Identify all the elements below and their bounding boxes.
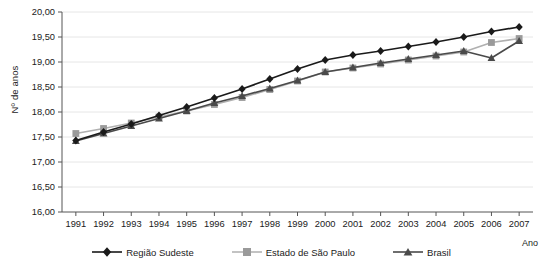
x-tick-label: 2002	[370, 219, 391, 229]
data-point-diamond	[516, 23, 523, 31]
x-tick-label: 1991	[66, 219, 87, 229]
x-tick-label: 2005	[453, 219, 474, 229]
data-point-diamond	[238, 85, 245, 93]
chart-legend: Região Sudeste Estado de São Paulo Brasi…	[0, 243, 543, 261]
chart-plot-area: 16,0016,5017,0017,5018,0018,5019,0019,50…	[0, 0, 543, 263]
line-chart: 16,0016,5017,0017,5018,0018,5019,0019,50…	[0, 0, 543, 263]
legend-marker-diamond-icon	[92, 246, 122, 258]
data-point-diamond	[377, 47, 384, 55]
x-tick-label: 2006	[481, 219, 502, 229]
legend-item-brasil[interactable]: Brasil	[393, 246, 451, 258]
series-line	[76, 41, 519, 141]
x-tick-label: 1994	[149, 219, 170, 229]
x-tick-label: 1995	[176, 219, 197, 229]
x-tick-label: 1996	[204, 219, 225, 229]
x-tick-label: 2003	[398, 219, 419, 229]
x-tick-label: 2000	[315, 219, 336, 229]
y-tick-label: 19,00	[32, 57, 55, 67]
x-tick-label: 1997	[232, 219, 253, 229]
data-point-diamond	[405, 42, 412, 50]
y-tick-label: 16,00	[32, 207, 55, 217]
y-tick-label: 17,00	[32, 157, 55, 167]
legend-label: Brasil	[427, 247, 451, 258]
data-point-diamond	[266, 75, 273, 83]
y-tick-label: 19,50	[32, 32, 55, 42]
data-series-layer	[72, 23, 523, 145]
data-point-diamond	[460, 33, 467, 41]
data-point-diamond	[349, 51, 356, 59]
data-point-diamond	[294, 65, 301, 73]
x-tick-label: 2004	[426, 219, 447, 229]
x-tick-label: 2001	[343, 219, 364, 229]
y-axis-title: Nº de anos	[9, 50, 20, 130]
data-point-diamond	[211, 94, 218, 102]
x-axis-tick-labels: 1991199219931994199519961997199819992000…	[66, 219, 530, 229]
data-point-diamond	[432, 38, 439, 46]
y-axis-tick-labels: 16,0016,5017,0017,5018,0018,5019,0019,50…	[32, 7, 55, 217]
data-point-square	[488, 39, 495, 46]
y-axis-ticks	[58, 12, 62, 212]
legend-marker-triangle-icon	[393, 246, 423, 258]
y-tick-label: 17,50	[32, 132, 55, 142]
data-point-diamond	[322, 56, 329, 64]
legend-label: Região Sudeste	[126, 247, 194, 258]
legend-item-regiao-sudeste[interactable]: Região Sudeste	[92, 246, 194, 258]
x-tick-label: 1998	[259, 219, 280, 229]
legend-label: Estado de São Paulo	[266, 247, 355, 258]
y-tick-label: 18,50	[32, 82, 55, 92]
x-tick-label: 1993	[121, 219, 142, 229]
x-tick-label: 1999	[287, 219, 308, 229]
x-tick-label: 2007	[509, 219, 530, 229]
legend-item-estado-de-sao-paulo[interactable]: Estado de São Paulo	[232, 246, 355, 258]
legend-marker-square-icon	[232, 246, 262, 258]
x-tick-label: 1992	[93, 219, 114, 229]
data-point-diamond	[488, 27, 495, 35]
data-point-square	[72, 130, 79, 137]
y-tick-label: 16,50	[32, 182, 55, 192]
y-tick-label: 20,00	[32, 7, 55, 17]
y-tick-label: 18,00	[32, 107, 55, 117]
x-axis-ticks	[76, 212, 519, 216]
